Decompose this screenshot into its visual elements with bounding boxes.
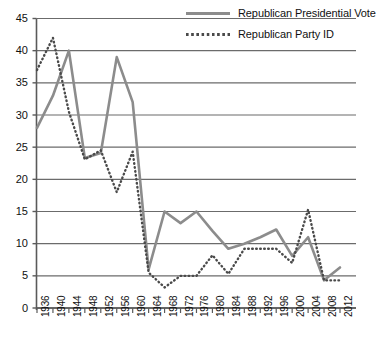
y-axis-label-45: 45 — [6, 13, 28, 24]
chart-legend: Republican Presidential Vote Republican … — [186, 6, 376, 41]
x-axis-label-1980: 1980 — [216, 296, 226, 317]
x-axis-label-1956: 1956 — [121, 296, 131, 317]
x-axis-label-1996: 1996 — [280, 296, 290, 317]
y-axis-label-5: 5 — [6, 270, 28, 281]
x-axis-label-1972: 1972 — [185, 296, 195, 317]
y-axis-label-15: 15 — [6, 206, 28, 217]
legend-swatch-solid-line-icon — [186, 8, 230, 19]
x-axis-label-1984: 1984 — [232, 296, 242, 317]
y-axis-label-25: 25 — [6, 142, 28, 153]
x-axis-label-1944: 1944 — [73, 296, 83, 317]
x-axis-label-1976: 1976 — [200, 296, 210, 317]
y-axis-label-30: 30 — [6, 110, 28, 121]
y-axis-label-20: 20 — [6, 174, 28, 185]
x-axis-label-2012: 2012 — [344, 296, 354, 317]
x-axis-label-1948: 1948 — [89, 296, 99, 317]
y-axis-label-0: 0 — [6, 303, 28, 314]
x-axis-label-1952: 1952 — [105, 296, 115, 317]
series-line-republican-party-id — [37, 38, 340, 288]
legend-item-republican-presidential-vote: Republican Presidential Vote — [186, 6, 376, 20]
series-line-republican-presidential-vote — [37, 51, 340, 281]
y-axis-label-10: 10 — [6, 238, 28, 249]
x-axis-label-1964: 1964 — [153, 296, 163, 317]
x-axis-label-1960: 1960 — [137, 296, 147, 317]
legend-label-republican-party-id: Republican Party ID — [238, 28, 334, 40]
x-axis-label-1940: 1940 — [57, 296, 67, 317]
x-axis-label-2008: 2008 — [328, 296, 338, 317]
x-axis-label-1988: 1988 — [248, 296, 258, 317]
y-axis-label-35: 35 — [6, 77, 28, 88]
legend-label-republican-presidential-vote: Republican Presidential Vote — [238, 7, 376, 19]
x-axis-label-1992: 1992 — [264, 296, 274, 317]
x-axis-label-1968: 1968 — [169, 296, 179, 317]
x-axis-label-2004: 2004 — [312, 296, 322, 317]
legend-swatch-dotted-line-icon — [186, 29, 230, 40]
y-axis-label-40: 40 — [6, 45, 28, 56]
x-axis-label-1936: 1936 — [41, 296, 51, 317]
gridlines — [37, 19, 357, 309]
x-axis-label-2000: 2000 — [296, 296, 306, 317]
legend-item-republican-party-id: Republican Party ID — [186, 27, 376, 41]
